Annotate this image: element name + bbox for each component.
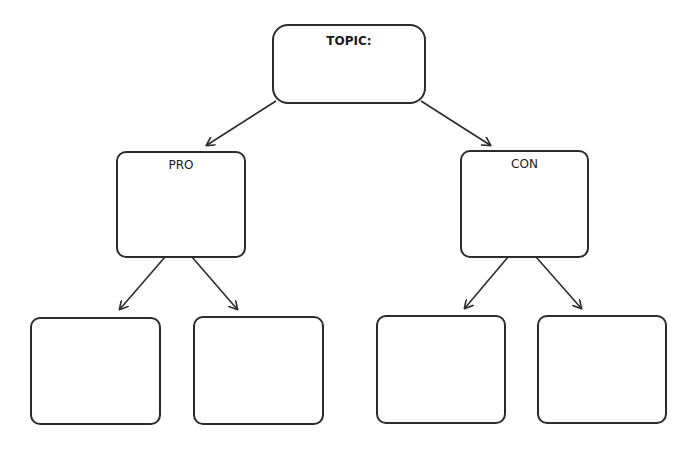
con-label: CON — [462, 157, 587, 171]
pro-box: PRO — [116, 151, 246, 258]
arrow-topic-to-con — [421, 101, 490, 145]
con-child-box-1 — [376, 315, 506, 424]
topic-label: TOPIC: — [274, 34, 424, 48]
pro-child-box-1 — [30, 317, 161, 425]
pro-child-box-2 — [193, 316, 324, 425]
arrow-con-to-child-1 — [465, 257, 508, 308]
topic-box: TOPIC: — [272, 24, 426, 104]
arrow-topic-to-pro — [207, 101, 276, 145]
arrow-pro-to-child-1 — [120, 257, 165, 309]
con-box: CON — [460, 150, 589, 258]
arrow-pro-to-child-2 — [192, 257, 237, 309]
pro-label: PRO — [118, 158, 244, 172]
con-child-box-2 — [537, 315, 667, 424]
arrow-con-to-child-2 — [536, 257, 581, 308]
